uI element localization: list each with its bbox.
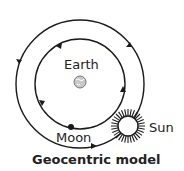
diagram-title: Geocentric model: [32, 153, 161, 166]
orbit-arrow-icon: [91, 143, 97, 149]
sun-icon: [111, 109, 145, 143]
sun-label: Sun: [149, 121, 174, 134]
moon-label: Moon: [56, 131, 91, 144]
geocentric-diagram: [0, 0, 184, 171]
earth-icon: [74, 76, 86, 88]
earth-label: Earth: [64, 58, 99, 71]
